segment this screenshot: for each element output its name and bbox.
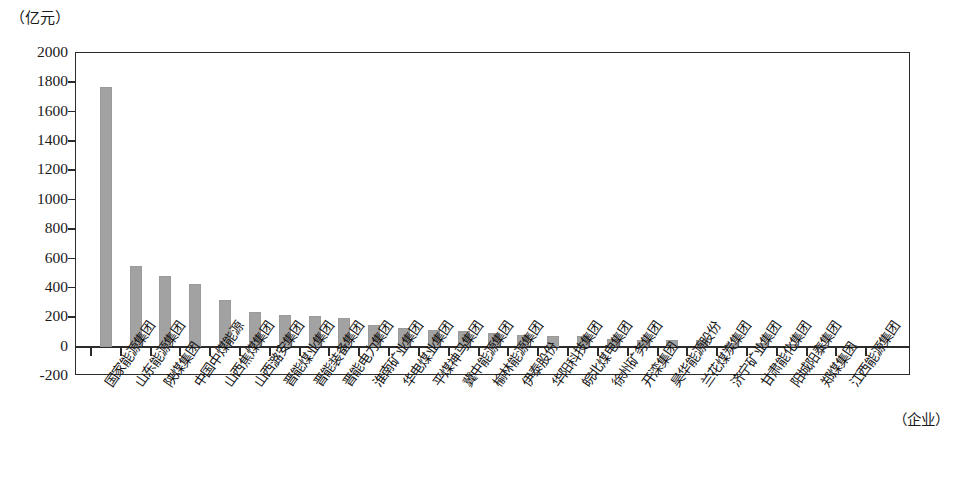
y-axis-tick-label: 2000 [0, 44, 68, 60]
bar [547, 336, 559, 347]
y-axis-labels: 2000180016001400120010008006004002000-20… [0, 0, 68, 485]
x-axis-tick [716, 347, 718, 356]
x-axis-tick [627, 347, 629, 356]
x-axis-tick [507, 347, 509, 356]
y-axis-tick-label: 1600 [0, 103, 68, 119]
y-axis-tick [68, 228, 75, 230]
x-axis-tick [567, 347, 569, 356]
x-axis-tick [746, 347, 748, 356]
bar [189, 284, 201, 347]
x-axis-tick [448, 347, 450, 356]
y-axis-tick [68, 199, 75, 201]
bar [130, 266, 142, 347]
y-axis-tick [68, 169, 75, 171]
x-axis-tick [478, 347, 480, 356]
bar [100, 87, 112, 347]
bar [279, 315, 291, 347]
x-axis-title: （企业） [893, 408, 949, 429]
x-axis-tick [388, 347, 390, 356]
y-axis-tick-label: 0 [0, 338, 68, 354]
y-axis-tick [68, 111, 75, 113]
y-axis-tick [68, 81, 75, 83]
x-axis-tick [358, 347, 360, 356]
x-axis-tick [299, 347, 301, 356]
bar [517, 335, 529, 347]
bar-chart: （亿元） 20001800160014001200100080060040020… [0, 0, 968, 485]
x-axis-tick [835, 347, 837, 356]
x-axis-tick [269, 347, 271, 356]
x-axis-tick [686, 347, 688, 356]
y-axis-tick [68, 258, 75, 260]
bar [309, 316, 321, 347]
bar [666, 340, 678, 347]
y-axis-tick-label: -200 [0, 367, 68, 383]
x-axis-tick [179, 347, 181, 356]
bar [368, 325, 380, 346]
y-axis-tick-label: 1200 [0, 161, 68, 177]
x-axis-tick [865, 347, 867, 356]
bar [637, 340, 649, 347]
x-axis-tick [328, 347, 330, 356]
x-axis-tick [657, 347, 659, 356]
bar [159, 276, 171, 346]
y-axis-tick-label: 400 [0, 279, 68, 295]
x-axis-tick [597, 347, 599, 356]
bar [607, 339, 619, 347]
x-axis-tick [209, 347, 211, 356]
x-axis-tick [806, 347, 808, 356]
bars-layer [76, 53, 909, 347]
x-axis-tick [537, 347, 539, 356]
x-axis-tick [239, 347, 241, 356]
plot-area [75, 52, 910, 375]
bar [488, 333, 500, 346]
bar [249, 312, 261, 347]
bar [219, 300, 231, 347]
x-axis-tick [120, 347, 122, 356]
y-axis-tick-label: 600 [0, 250, 68, 266]
y-axis-tick [68, 287, 75, 289]
bar [338, 318, 350, 347]
x-axis-tick [90, 347, 92, 356]
y-axis-tick [68, 316, 75, 318]
x-axis-tick [150, 347, 152, 356]
bar [458, 331, 470, 346]
x-axis-tick [418, 347, 420, 356]
bar [398, 328, 410, 346]
bar [577, 336, 589, 346]
y-axis-tick-label: 1800 [0, 73, 68, 89]
x-axis-ticks [76, 347, 909, 356]
y-axis-tick-label: 200 [0, 308, 68, 324]
y-axis-tick-label: 1400 [0, 132, 68, 148]
y-axis-tick [68, 140, 75, 142]
x-axis-tick [776, 347, 778, 356]
y-axis-tick-label: 1000 [0, 191, 68, 207]
bar [428, 330, 440, 347]
y-axis-tick-label: 800 [0, 220, 68, 236]
